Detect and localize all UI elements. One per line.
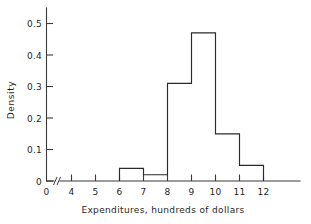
x-tick-label-5: 5 bbox=[93, 187, 99, 197]
x-tick-label-8: 8 bbox=[165, 187, 171, 197]
y-tick-label-2: 0.2 bbox=[27, 114, 42, 124]
x-tick-label-6: 6 bbox=[117, 187, 123, 197]
y-tick-label-4: 0.4 bbox=[27, 51, 42, 61]
x-tick-label-0: 0 bbox=[44, 187, 50, 197]
x-tick-label-4: 4 bbox=[69, 187, 75, 197]
chart-canvas: 0 0.1 0.2 0.3 0.4 0.5 0 4 5 6 7 8 9 10 1… bbox=[0, 0, 311, 224]
x-tick-marks bbox=[72, 175, 264, 182]
x-tick-label-7: 7 bbox=[141, 187, 147, 197]
y-axis-title: Density bbox=[6, 81, 16, 119]
y-tick-marks bbox=[47, 24, 54, 182]
x-axis-title: Expenditures, hundreds of dollars bbox=[81, 205, 244, 215]
histogram-figure: 0 0.1 0.2 0.3 0.4 0.5 0 4 5 6 7 8 9 10 1… bbox=[0, 0, 311, 224]
x-tick-label-9: 9 bbox=[189, 187, 195, 197]
histogram-bars bbox=[120, 33, 264, 181]
x-tick-label-10: 10 bbox=[210, 187, 222, 197]
y-tick-label-0: 0 bbox=[36, 177, 42, 187]
y-tick-label-3: 0.3 bbox=[27, 82, 42, 92]
x-tick-label-12: 12 bbox=[258, 187, 270, 197]
x-tick-label-11: 11 bbox=[234, 187, 246, 197]
y-tick-label-1: 0.1 bbox=[27, 145, 42, 155]
y-tick-label-5: 0.5 bbox=[27, 19, 42, 29]
